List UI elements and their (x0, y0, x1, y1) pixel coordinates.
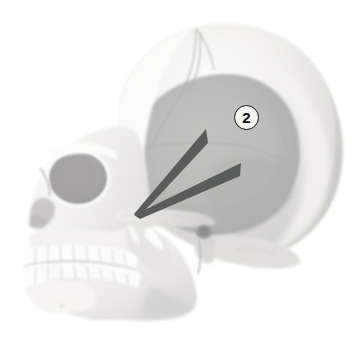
callout-number-2-label: 2 (242, 110, 250, 125)
callout-number-2: 2 (234, 105, 259, 130)
skull-lateral-view-illustration (0, 0, 362, 355)
external-acoustic-meatus (196, 225, 212, 239)
skull-figure-panel: v. (0, 0, 362, 355)
